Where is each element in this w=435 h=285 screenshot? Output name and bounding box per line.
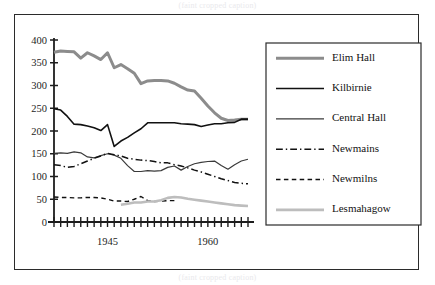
y-tick-label: 400	[31, 35, 47, 46]
y-tick-label: 0	[42, 217, 47, 228]
legend-label[interactable]: Elim Hall	[332, 51, 375, 63]
x-tick-label: 1960	[197, 236, 218, 247]
legend-group[interactable]: Elim HallKilbirnieCentral HallNewmainsNe…	[266, 43, 421, 225]
series-group	[54, 51, 248, 206]
y-tick-label: 350	[31, 57, 47, 68]
chart-figure: (faint cropped caption) 0501001502002503…	[0, 0, 435, 285]
figure-caption-bottom: (faint cropped caption)	[0, 272, 435, 283]
legend-box	[266, 43, 421, 225]
legend-label[interactable]: Kilbirnie	[332, 81, 372, 93]
series-line	[54, 109, 248, 147]
series-line	[54, 153, 248, 183]
y-tick-label: 250	[31, 103, 47, 114]
y-tick-label: 200	[31, 126, 47, 137]
y-tick-label: 300	[31, 80, 47, 91]
y-tick-label: 150	[31, 148, 47, 159]
axes-group: 05010015020025030035040019451960	[31, 35, 254, 247]
series-line	[54, 51, 248, 121]
legend-label[interactable]: Central Hall	[332, 111, 386, 123]
y-tick-label: 100	[31, 171, 47, 182]
x-tick-label: 1945	[97, 236, 118, 247]
series-line	[121, 197, 248, 206]
legend-label[interactable]: Newmilns	[332, 172, 377, 184]
y-tick-label: 50	[37, 194, 48, 205]
chart-svg: 05010015020025030035040019451960 Elim Ha…	[0, 0, 435, 285]
legend-label[interactable]: Lesmahagow	[332, 202, 391, 214]
legend-label[interactable]: Newmains	[332, 142, 379, 154]
